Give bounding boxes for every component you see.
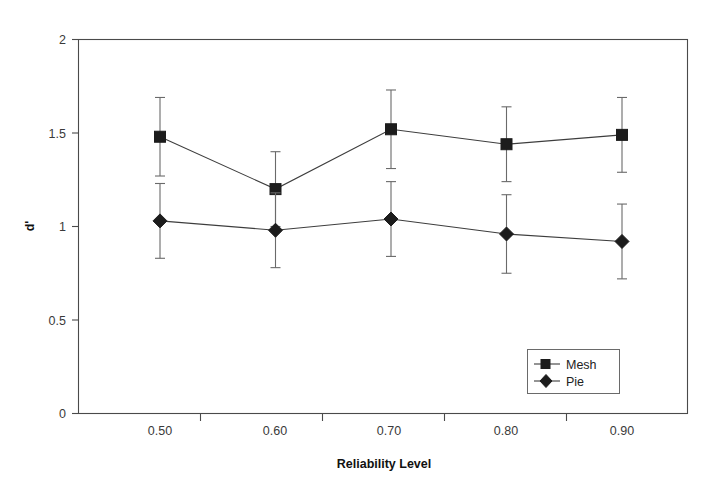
legend-label-mesh: Mesh: [566, 358, 597, 372]
data-point-square: [617, 129, 628, 140]
y-tick-label: 1.5: [49, 127, 66, 141]
x-axis-title: Reliability Level: [337, 457, 431, 471]
x-tick-label: 0.50: [148, 424, 172, 438]
legend-marker-square: [541, 360, 550, 369]
x-tick-label: 0.80: [494, 424, 518, 438]
y-tick-label: 0.5: [49, 314, 66, 328]
data-point-square: [501, 139, 512, 150]
x-tick-label: 0.70: [377, 424, 401, 438]
x-tick-label: 0.90: [610, 424, 634, 438]
chart-legend: Mesh Pie: [528, 350, 620, 394]
chart-background: [0, 0, 713, 492]
data-point-square: [155, 131, 166, 142]
legend-label-pie: Pie: [566, 375, 584, 389]
y-tick-label: 0: [59, 407, 66, 421]
chart-canvas: 2 1.5 1 0.5 0 d' 0.50 0.60 0.70 0.80 0.9…: [0, 0, 713, 492]
chart-figure: 2 1.5 1 0.5 0 d' 0.50 0.60 0.70 0.80 0.9…: [0, 0, 713, 492]
y-tick-label: 2: [59, 33, 66, 47]
y-tick-label: 1: [59, 220, 66, 234]
y-axis-title: d': [23, 221, 37, 232]
data-point-square: [386, 124, 397, 135]
x-tick-label: 0.60: [263, 424, 287, 438]
